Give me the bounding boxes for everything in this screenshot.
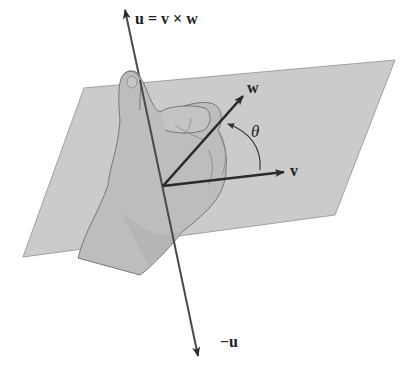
neg-u-label: −u [220,333,238,351]
w-label: w [247,79,259,97]
cross-product-diagram [0,0,409,371]
v-label: v [290,162,298,180]
u-cross-product-label: u = v × w [135,10,198,28]
theta-label: θ [251,122,259,142]
